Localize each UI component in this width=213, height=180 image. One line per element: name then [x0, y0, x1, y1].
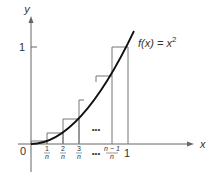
x-axis-label: x [199, 138, 206, 150]
riemann-sum-diagram: y x 1 0 1 f(x) = x2 1 n 2 n 3 n n − 1 n … [0, 0, 213, 180]
plot-ellipsis: ••• [92, 125, 101, 134]
tick-3-n-den: n [77, 153, 81, 160]
function-curve [31, 31, 134, 144]
origin-label: 0 [20, 145, 26, 157]
y-axis [29, 16, 38, 172]
tick-1-n-num: 1 [45, 145, 49, 152]
x-axis-arrow-icon [187, 142, 194, 147]
rectangle-n [112, 47, 128, 144]
y-axis-label: y [23, 3, 31, 15]
axis-ellipsis: ••• [92, 149, 101, 158]
x-tick-label-1: 1 [124, 147, 130, 159]
tick-n-1-n-num: n − 1 [104, 145, 120, 152]
tick-1-n-den: n [45, 153, 49, 160]
x-fraction-ticks: 1 n 2 n 3 n n − 1 n [44, 145, 120, 160]
tick-3-n-num: 3 [77, 145, 81, 152]
tick-n-1-n-den: n [110, 153, 114, 160]
function-label: f(x) = x2 [138, 35, 177, 49]
y-axis-arrow-icon [29, 16, 34, 23]
y-tick-label-1: 1 [19, 41, 25, 53]
tick-2-n-num: 2 [61, 145, 65, 152]
rectangle-4-partial [79, 100, 84, 144]
riemann-rectangles [31, 47, 128, 144]
tick-2-n-den: n [61, 153, 65, 160]
